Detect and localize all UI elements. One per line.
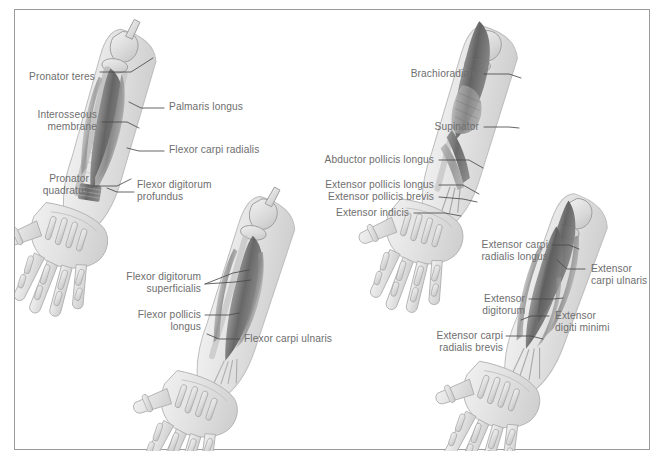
label-flexor-carpi-ulnaris: Flexor carpi ulnaris bbox=[244, 333, 354, 345]
label-extensor-carpi-ulnaris: Extensor carpi ulnaris bbox=[591, 263, 661, 288]
label-flexor-digitorum-superficialis: Flexor digitorum superficialis bbox=[105, 271, 201, 296]
label-flexor-pollicis-longus: Flexor pollicis longus bbox=[113, 309, 201, 334]
label-supinator: Supinator bbox=[399, 121, 479, 133]
label-extensor-pollicis-longus: Extensor pollicis longus bbox=[316, 179, 434, 191]
label-interosseous-membrane: Interosseous membrane bbox=[17, 109, 97, 134]
label-abductor-pollicis-longus: Abductor pollicis longus bbox=[316, 154, 434, 166]
label-flexor-carpi-radialis: Flexor carpi radialis bbox=[169, 144, 279, 156]
forearm-illustration-canvas bbox=[15, 10, 651, 451]
page-caption bbox=[16, 455, 316, 463]
label-extensor-digiti-minimi: Extensor digiti minimi bbox=[555, 310, 641, 335]
label-pronator-quadratus: Pronator quadratus bbox=[27, 173, 89, 198]
anatomy-plate: Pronator teres Palmaris longus Interosse… bbox=[14, 9, 650, 450]
label-brachioradialis: Brachioradialis bbox=[393, 68, 479, 80]
label-pronator-teres: Pronator teres bbox=[23, 71, 95, 83]
figure-deep-posterior bbox=[340, 10, 522, 329]
label-extensor-pollicis-brevis: Extensor pollicis brevis bbox=[316, 191, 434, 203]
label-extensor-carpi-radialis-longus: Extensor carpi radialis longus bbox=[456, 239, 548, 264]
label-extensor-indicis: Extensor indicis bbox=[319, 207, 409, 219]
label-extensor-digitorum: Extensor digitorum bbox=[453, 293, 525, 318]
label-palmaris-longus: Palmaris longus bbox=[169, 101, 269, 113]
label-extensor-carpi-radialis-brevis: Extensor carpi radialis brevis bbox=[409, 330, 503, 355]
leader-flexor-carpi-radialis bbox=[127, 148, 164, 151]
label-flexor-digitorum-profundus: Flexor digitorum profundus bbox=[137, 179, 237, 204]
